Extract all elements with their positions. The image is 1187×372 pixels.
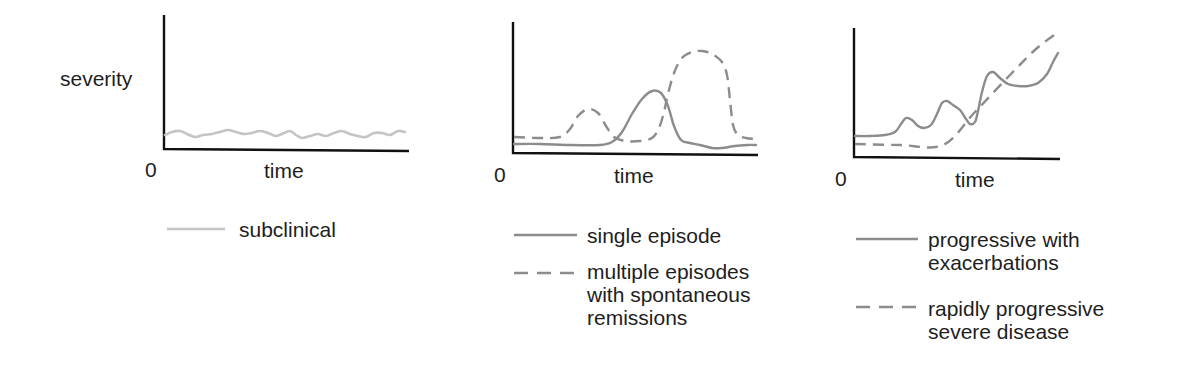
chart3-origin-label: 0 (835, 168, 847, 190)
chart-progressive (854, 28, 1060, 159)
series-multiple-episodes-with-spontaneous-remissions (514, 51, 756, 142)
series-progressive-with-exacerbations (855, 53, 1058, 136)
legend-line-1: progressive with (928, 228, 1080, 251)
series-subclinical (165, 130, 405, 138)
axes (513, 22, 758, 155)
legend-label-multiple-episodes: multiple episodes with spontaneous remis… (587, 260, 750, 329)
legend-label-progressive-exacerbations: progressive with exacerbations (928, 228, 1080, 274)
chart1-origin-label: 0 (145, 159, 157, 181)
legend-line-1: rapidly progressive (928, 297, 1104, 320)
series-rapidly-progressive-severe-disease (855, 33, 1057, 147)
chart2-origin-label: 0 (494, 164, 506, 186)
axes (854, 28, 1060, 159)
chart3-x-axis-label: time (955, 169, 995, 191)
legend-line-2: with spontaneous (587, 283, 750, 306)
chart-episodes (513, 22, 758, 155)
legend-label-rapidly-progressive: rapidly progressive severe disease (928, 297, 1104, 343)
chart1-x-axis-label: time (264, 160, 304, 182)
series-single-episode (514, 91, 756, 149)
chart2-x-axis-label: time (614, 165, 654, 187)
legend-label-single-episode: single episode (587, 224, 721, 247)
chart-subclinical (164, 15, 409, 151)
disease-course-figure: severity 0 time subclinical 0 time singl… (0, 0, 1187, 372)
y-axis-label: severity (60, 68, 132, 90)
legend-line-2: severe disease (928, 320, 1104, 343)
legend-line-2: exacerbations (928, 251, 1080, 274)
legend-line-3: remissions (587, 306, 750, 329)
legend-line-1: multiple episodes (587, 260, 750, 283)
legend-label-subclinical: subclinical (239, 218, 336, 241)
